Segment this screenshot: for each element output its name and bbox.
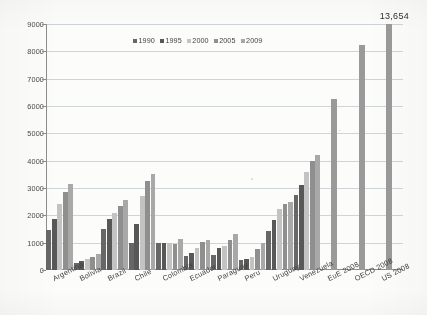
bar-us-2008: [386, 24, 392, 270]
bar-group: [266, 24, 293, 270]
bar-eue-2008: [331, 99, 337, 270]
y-tick-label: 5000: [10, 129, 44, 138]
bar-uruguay-2009: [288, 202, 293, 270]
y-tick-label: 4000: [10, 157, 44, 166]
bar-peru-2000: [250, 257, 255, 270]
bar-argentina-1990: [46, 230, 51, 270]
bar-argentina-2005: [63, 192, 68, 270]
bar-colombia-1995: [162, 243, 167, 270]
bar-oecd-2008: [359, 45, 365, 271]
bar-group: [211, 24, 238, 270]
bar-group: [293, 24, 320, 270]
y-tick-label: 7000: [10, 75, 44, 84]
bar-colombia-2000: [167, 243, 172, 270]
y-tick-label: 8000: [10, 47, 44, 56]
bar-group: [238, 24, 265, 270]
bar-group: [321, 24, 348, 270]
bar-venezuela-2005: [310, 161, 315, 270]
bar-argentina-1995: [52, 219, 57, 270]
bar-group: [376, 24, 403, 270]
bar-paraguay-2000: [222, 246, 227, 270]
y-tick-label: 6000: [10, 102, 44, 111]
bar-chile-2000: [140, 196, 145, 270]
bar-group: [101, 24, 128, 270]
bar-venezuela-2009: [315, 155, 320, 270]
bar-brazil-1995: [107, 219, 112, 270]
bar-uruguay-2005: [283, 204, 288, 270]
bar-group: [348, 24, 375, 270]
y-tick-label: 0: [10, 266, 44, 275]
bar-uruguay-1990: [266, 231, 271, 270]
bar-venezuela-1995: [299, 185, 304, 270]
bar-colombia-1990: [156, 243, 161, 270]
y-tick-mark: [42, 270, 46, 271]
y-tick-label: 9000: [10, 20, 44, 29]
bar-chile-1995: [134, 224, 139, 270]
bar-brazil-2000: [112, 213, 117, 270]
bar-venezuela-2000: [304, 172, 309, 270]
value-annotation: 13,654: [380, 11, 409, 21]
bar-brazil-1990: [101, 229, 106, 270]
bar-chile-2005: [145, 181, 150, 270]
bar-chile-2009: [151, 174, 156, 270]
bar-brazil-2005: [118, 206, 123, 270]
bar-group: [73, 24, 100, 270]
y-tick-label: 3000: [10, 184, 44, 193]
scan-speck: [251, 178, 253, 180]
bar-venezuela-1990: [294, 195, 299, 270]
bar-groups: [46, 24, 403, 270]
bar-ecuador-2000: [195, 248, 200, 270]
bar-argentina-2000: [57, 204, 62, 270]
bar-group: [46, 24, 73, 270]
bar-chile-1990: [129, 243, 134, 270]
y-tick-label: 1000: [10, 239, 44, 248]
bar-group: [156, 24, 183, 270]
bar-paraguay-1995: [217, 248, 222, 270]
bar-uruguay-2000: [277, 209, 282, 270]
scan-speck: [338, 130, 341, 131]
bar-brazil-2009: [123, 200, 128, 270]
bar-uruguay-1995: [272, 220, 277, 270]
bar-chart: 0100020003000400050006000700080009000 19…: [0, 0, 427, 315]
bar-group: [183, 24, 210, 270]
bar-group: [128, 24, 155, 270]
bar-argentina-2009: [68, 184, 73, 270]
bar-peru-2009: [261, 243, 266, 270]
y-tick-label: 2000: [10, 211, 44, 220]
